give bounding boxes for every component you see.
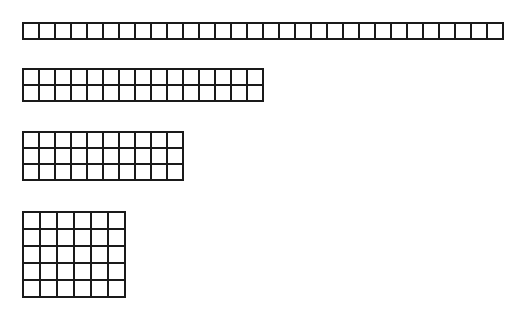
unit-square [72,149,86,163]
unit-square [168,149,182,163]
unit-square [120,165,134,179]
unit-square [184,86,198,100]
unit-square [152,70,166,84]
unit-square [58,264,73,279]
unit-square [248,24,262,38]
unit-square [168,70,182,84]
unit-square [56,70,70,84]
unit-square [40,86,54,100]
unit-square [92,230,107,245]
unit-square [41,213,56,228]
unit-square [136,24,150,38]
unit-square [72,86,86,100]
unit-square [152,24,166,38]
unit-square [424,24,438,38]
unit-square [24,213,39,228]
unit-square [24,70,38,84]
unit-square [184,24,198,38]
unit-square [109,230,124,245]
unit-square [41,247,56,262]
unit-square [41,264,56,279]
unit-square [109,281,124,296]
unit-square [184,70,198,84]
unit-square [56,24,70,38]
unit-square [120,133,134,147]
unit-square [152,149,166,163]
unit-square [104,70,118,84]
unit-square [104,165,118,179]
unit-square [328,24,342,38]
unit-square [24,281,39,296]
unit-square [88,86,102,100]
unit-square [312,24,326,38]
unit-square [88,24,102,38]
unit-square [408,24,422,38]
unit-square [40,70,54,84]
unit-square [24,165,38,179]
unit-square [75,230,90,245]
unit-square [168,165,182,179]
unit-square [200,86,214,100]
unit-square [58,247,73,262]
unit-square [109,213,124,228]
unit-square [248,86,262,100]
unit-square [40,149,54,163]
unit-square [280,24,294,38]
unit-square [168,24,182,38]
unit-square [72,24,86,38]
unit-square [88,133,102,147]
unit-square [92,281,107,296]
unit-square [40,24,54,38]
unit-square [200,70,214,84]
unit-square [344,24,358,38]
unit-square [88,165,102,179]
unit-square [120,24,134,38]
unit-square [472,24,486,38]
unit-square-array-10x3 [22,131,184,181]
unit-square [232,86,246,100]
unit-square [168,86,182,100]
unit-square [40,133,54,147]
unit-square [264,24,278,38]
unit-square [360,24,374,38]
unit-square [136,133,150,147]
unit-square [440,24,454,38]
unit-square [136,70,150,84]
unit-square [232,24,246,38]
unit-square [296,24,310,38]
unit-square [58,230,73,245]
unit-square [216,24,230,38]
unit-square [75,247,90,262]
unit-square [152,86,166,100]
unit-square [232,70,246,84]
unit-square [24,24,38,38]
unit-square [56,165,70,179]
unit-square [136,86,150,100]
unit-square [92,213,107,228]
unit-square [58,213,73,228]
unit-square [75,281,90,296]
unit-square [92,264,107,279]
unit-square [200,24,214,38]
unit-square [24,247,39,262]
unit-square [24,86,38,100]
unit-square [40,165,54,179]
unit-square [248,70,262,84]
unit-square [24,230,39,245]
unit-square [216,70,230,84]
array-diagram-canvas [0,0,516,317]
unit-square-array-30x1 [22,22,504,40]
unit-square [75,213,90,228]
unit-square [104,133,118,147]
unit-square [24,133,38,147]
unit-square [56,149,70,163]
unit-square [72,70,86,84]
unit-square [75,264,90,279]
unit-square [488,24,502,38]
unit-square [24,149,38,163]
unit-square [41,281,56,296]
unit-square [216,86,230,100]
unit-square [152,133,166,147]
unit-square [456,24,470,38]
unit-square [392,24,406,38]
